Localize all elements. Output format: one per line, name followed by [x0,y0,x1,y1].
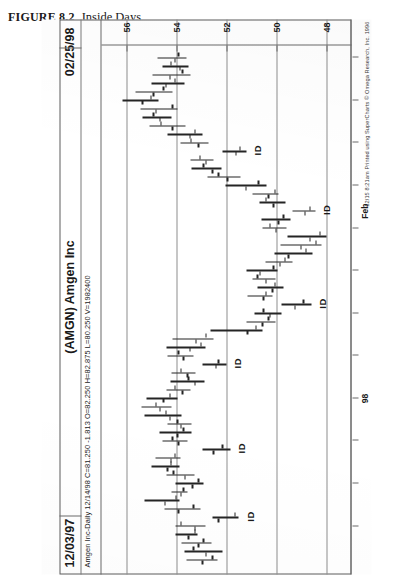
close-tick [218,360,220,364]
ohlc-bar [184,551,223,553]
ohlc-bar [143,117,172,119]
open-tick [163,399,165,403]
ohlc-bar [253,278,276,280]
date-tick-mark [353,397,359,398]
open-tick [273,203,275,207]
date-tick-mark [353,355,359,356]
close-tick [274,189,276,193]
open-tick [187,374,189,378]
open-tick [159,118,161,122]
chart-header: 12/03/97 (AMGN) Amgen Inc 02/25/98 Amgen… [60,20,102,575]
close-tick [203,164,205,168]
price-tick-mark [177,46,178,52]
date-tick-mark [353,227,359,228]
open-tick [183,356,185,360]
open-tick [177,433,179,437]
open-tick [279,263,281,267]
close-tick [198,479,200,483]
price-tick-mark [277,46,278,52]
inside-day-label: ID [235,443,246,454]
date-tick-mark [353,312,359,313]
ohlc-bar [149,125,185,127]
open-tick [192,484,194,488]
ohlc-bar [254,313,282,315]
open-tick [180,425,182,429]
open-tick [309,237,311,241]
ohlc-bar [262,219,291,221]
date-axis-label: 98 [360,394,370,403]
close-tick [178,53,180,57]
ohlc-bar [163,66,189,68]
open-tick [178,442,180,446]
close-tick [180,368,182,372]
open-tick [182,391,184,395]
open-tick [142,101,144,105]
close-tick [175,496,177,500]
ohlc-bar [182,542,212,544]
close-tick [303,300,305,304]
close-tick [305,249,307,253]
close-tick [212,555,214,559]
price-tick-mark [227,46,228,52]
open-tick [272,288,274,292]
close-tick [183,487,185,491]
open-tick [172,127,174,131]
ohlc-bar [163,440,188,442]
open-tick [167,467,169,471]
close-tick [218,172,220,176]
open-tick [227,178,229,182]
close-tick [269,223,271,227]
open-tick [189,348,191,352]
close-tick [265,198,267,202]
open-tick [198,144,200,148]
open-tick [212,169,214,173]
open-tick [194,382,196,386]
ohlc-bar [253,193,279,195]
close-tick [153,113,155,117]
price-tick-mark [127,46,128,52]
close-tick [172,436,174,440]
open-tick [194,527,196,531]
gridline [277,20,278,575]
close-tick [170,62,172,66]
close-tick [177,419,179,423]
open-tick [189,135,191,139]
ohlc-bar [282,304,312,306]
open-tick [169,416,171,420]
ohlc-bar [144,500,179,502]
ohlc-bar [167,347,206,349]
close-tick [169,394,171,398]
close-tick [239,147,241,151]
open-tick [268,195,270,199]
close-tick [194,130,196,134]
close-tick [222,445,224,449]
close-tick [257,274,259,278]
close-tick [163,87,165,91]
ohlc-bar [155,457,180,459]
start-date-label: 12/03/97 [63,519,77,568]
close-tick [274,283,276,287]
close-tick [174,385,176,389]
close-tick [265,291,267,295]
open-tick [188,535,190,539]
close-tick [319,232,321,236]
close-tick [178,351,180,355]
date-tick-mark [353,525,359,526]
open-tick [195,339,197,343]
close-tick [193,547,195,551]
close-tick [283,215,285,219]
close-tick [315,240,317,244]
ohlc-bar [274,253,313,255]
open-tick [218,518,220,522]
inside-day-label: ID [252,145,263,156]
open-tick [202,561,204,565]
close-tick [234,513,236,517]
date-tick-mark [353,185,359,186]
open-tick [215,365,217,369]
chart-page: 12/03/97 (AMGN) Amgen Inc 02/25/98 Amgen… [42,20,372,575]
open-tick [184,476,186,480]
inside-day-label: ID [317,298,328,309]
open-tick [165,84,167,88]
open-tick [259,271,261,275]
symbol-title: (AMGN) Amgen Inc [63,240,77,353]
